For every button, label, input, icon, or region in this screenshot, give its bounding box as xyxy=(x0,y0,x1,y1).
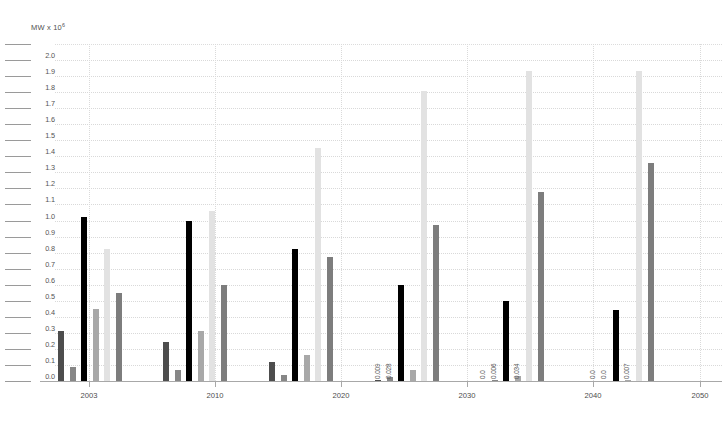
bar-slot: 0.034 xyxy=(515,44,521,381)
bar-slot: 0.009 xyxy=(375,44,381,381)
y-axis-tick xyxy=(5,301,31,302)
x-axis-tick-label: 2003 xyxy=(81,391,98,400)
y-axis-tick-label: 1.7 xyxy=(31,99,55,108)
bar xyxy=(221,285,227,381)
bar-slot xyxy=(292,44,298,381)
y-axis-tick-label: 0.8 xyxy=(31,244,55,253)
bar xyxy=(93,309,99,381)
bar xyxy=(292,249,298,381)
bar xyxy=(613,310,619,381)
bar-group xyxy=(269,44,338,381)
bar-slot xyxy=(304,44,310,381)
vertical-gridline xyxy=(467,44,468,381)
bar xyxy=(648,163,654,381)
bar-slot xyxy=(433,44,439,381)
bar-slot xyxy=(175,44,181,381)
bar-slot xyxy=(421,44,427,381)
bar xyxy=(116,293,122,381)
bar-slot xyxy=(526,44,532,381)
bar-slot xyxy=(81,44,87,381)
bar-slot xyxy=(104,44,110,381)
y-axis-unit-prefix: MW x 10 xyxy=(31,23,62,32)
bar xyxy=(269,362,275,381)
y-axis-tick xyxy=(5,172,31,173)
x-axis-tick xyxy=(215,381,216,387)
bar-slot xyxy=(503,44,509,381)
y-axis-tick xyxy=(5,349,31,350)
x-axis-tick-label: 2040 xyxy=(585,391,602,400)
y-axis-tick-label: 0.2 xyxy=(31,340,55,349)
bar-slot: 0.007 xyxy=(625,44,631,381)
x-axis-tick-label: 2050 xyxy=(692,391,709,400)
bar-slot: 0.0 xyxy=(480,44,486,381)
y-axis-tick xyxy=(5,221,31,222)
bar-slot: 0.0 xyxy=(590,44,596,381)
bar-slot xyxy=(281,44,287,381)
y-axis-tick xyxy=(5,317,31,318)
bar-slot xyxy=(410,44,416,381)
x-axis-tick xyxy=(700,381,701,387)
x-axis-line xyxy=(40,381,722,382)
y-axis-unit-exponent: 6 xyxy=(62,22,65,28)
bar-value-label: 0.0 xyxy=(600,370,607,379)
bar-value-label: 0.006 xyxy=(490,364,497,380)
vertical-gridline xyxy=(700,44,701,381)
bar-value-label: 0.028 xyxy=(385,364,392,380)
bar xyxy=(538,192,544,381)
bar xyxy=(70,367,76,381)
bar-slot xyxy=(613,44,619,381)
bar-slot xyxy=(116,44,122,381)
bar xyxy=(163,342,169,381)
y-axis-tick-label: 1.0 xyxy=(31,212,55,221)
bar xyxy=(104,249,110,381)
bar-slot xyxy=(70,44,76,381)
y-axis-tick-label: 1.5 xyxy=(31,131,55,140)
bar-value-label: 0.009 xyxy=(374,364,381,380)
x-axis-tick xyxy=(341,381,342,387)
bar xyxy=(636,71,642,381)
y-axis-tick-label: 1.3 xyxy=(31,163,55,172)
bar-slot xyxy=(186,44,192,381)
bar xyxy=(209,211,215,381)
y-axis-tick-label: 1.8 xyxy=(31,83,55,92)
y-axis-tick-label: 0.3 xyxy=(31,324,55,333)
y-axis-tick xyxy=(5,44,31,45)
x-axis-tick-label: 2020 xyxy=(333,391,350,400)
y-axis: 0.00.10.20.30.40.50.60.70.80.91.01.11.21… xyxy=(5,44,55,381)
bar xyxy=(186,221,192,382)
bar-slot xyxy=(398,44,404,381)
y-axis-tick xyxy=(5,333,31,334)
y-axis-unit-caption: MW x 106 xyxy=(31,23,65,32)
y-axis-tick xyxy=(5,204,31,205)
y-axis-tick-label: 0.7 xyxy=(31,260,55,269)
y-axis-tick xyxy=(5,269,31,270)
bar-slot xyxy=(327,44,333,381)
y-axis-tick xyxy=(5,285,31,286)
bar xyxy=(175,370,181,381)
bar xyxy=(410,370,416,381)
bar-slot xyxy=(198,44,204,381)
y-axis-tick xyxy=(5,76,31,77)
y-axis-tick-label: 1.1 xyxy=(31,195,55,204)
bar-group: 0.00.0060.034 xyxy=(480,44,549,381)
bar-value-label: 0.034 xyxy=(513,364,520,380)
chart-page: MW x 106 0.0090.0280.00.0060.0340.00.00.… xyxy=(0,0,722,423)
y-axis-tick xyxy=(5,60,31,61)
y-axis-tick-label: 0.0 xyxy=(31,372,55,381)
x-axis-tick xyxy=(467,381,468,387)
bar xyxy=(327,257,333,381)
y-axis-tick-label: 0.9 xyxy=(31,228,55,237)
y-axis-tick xyxy=(5,381,31,382)
y-axis-tick-label: 1.2 xyxy=(31,179,55,188)
bar-slot: 0.0 xyxy=(602,44,608,381)
y-axis-tick xyxy=(5,124,31,125)
bar-slot xyxy=(648,44,654,381)
bar xyxy=(526,71,532,381)
bar xyxy=(433,225,439,381)
bar xyxy=(503,301,509,381)
y-axis-tick xyxy=(5,92,31,93)
bar-slot xyxy=(209,44,215,381)
bar-slot xyxy=(221,44,227,381)
bar-slot xyxy=(269,44,275,381)
bar-slot xyxy=(538,44,544,381)
